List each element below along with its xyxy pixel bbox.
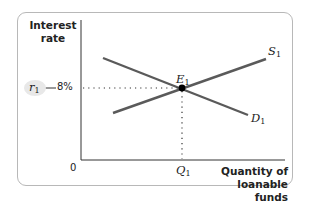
- demand-label-sub: 1: [260, 117, 265, 126]
- supply-curve: [113, 59, 266, 113]
- supply-label: S1: [268, 44, 281, 59]
- equilibrium-label: E1: [176, 72, 190, 87]
- y-axis-title-line1: Interest: [28, 19, 78, 32]
- supply-label-sub: 1: [276, 50, 281, 59]
- demand-label-main: D: [251, 111, 260, 125]
- x-axis-title-line2: loanable funds: [208, 178, 288, 202]
- rate-tick-label: 8%: [57, 81, 73, 92]
- rate-symbol-sub: 1: [35, 86, 40, 95]
- quantity-tick-label: Q1: [176, 163, 191, 178]
- rate-symbol-label: r1: [29, 80, 40, 95]
- demand-label: D1: [251, 111, 265, 126]
- y-axis-title: Interest rate: [28, 19, 78, 45]
- x-axis-title: Quantity of loanable funds: [208, 165, 288, 202]
- y-axis-title-line2: rate: [28, 32, 78, 45]
- origin-label: 0: [70, 162, 76, 173]
- equilibrium-label-sub: 1: [184, 78, 189, 87]
- supply-label-main: S: [268, 44, 276, 58]
- x-axis-title-line1: Quantity of: [208, 165, 288, 178]
- quantity-label-sub: 1: [185, 169, 190, 178]
